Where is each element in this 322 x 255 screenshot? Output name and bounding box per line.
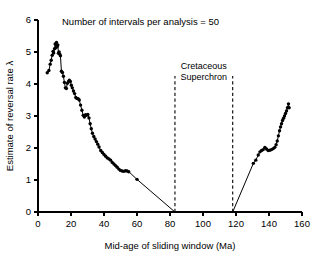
data-point [254,158,257,161]
x-axis-tick-label: 80 [165,218,176,229]
y-axis-tick-label: 3 [26,110,31,121]
data-point [279,125,282,128]
x-axis-tick-label: 100 [195,218,211,229]
data-point [86,113,89,116]
data-point [69,80,72,83]
data-point [47,69,50,72]
data-point [78,98,81,101]
data-point [87,116,90,119]
chart-canvas: 0123456 020406080100120140160 Cretaceous… [0,0,322,255]
data-point [52,51,55,54]
x-axis-tick-label: 40 [99,218,110,229]
superchron-label-line1: Cretaceous [181,61,228,71]
y-axis-tick-label: 5 [26,46,31,57]
x-axis-title: Mid-age of sliding window (Ma) [105,240,236,251]
data-point [127,170,130,173]
x-axis-tick-label: 60 [132,218,143,229]
data-point [88,122,91,125]
x-axis-tick-label: 160 [294,218,310,229]
reversal-rate-chart: 0123456 020406080100120140160 Cretaceous… [0,0,322,255]
data-point [91,132,94,135]
data-point [257,153,260,156]
x-axis-tick-label: 120 [228,218,244,229]
data-point [280,122,283,125]
data-point [276,139,279,142]
data-point [79,103,82,106]
data-point [90,127,93,130]
y-axis-title: Estimate of reversal rate λ [4,61,15,172]
chart-title: Number of intervals per analysis = 50 [62,16,219,27]
data-point [50,59,53,62]
data-point [71,86,74,89]
data-point [56,43,59,46]
data-point [73,92,76,95]
x-axis-tick-label: 0 [35,218,40,229]
data-point [285,109,288,112]
chart-background [0,0,322,255]
y-axis-tick-label: 2 [26,142,31,153]
data-point [278,129,281,132]
y-axis-tick-label: 1 [26,174,31,185]
data-point [65,87,68,90]
data-point [135,178,138,181]
data-point [49,62,52,65]
data-point [80,109,83,112]
data-point [277,134,280,137]
data-point [62,75,65,78]
data-point [97,145,100,148]
data-point [63,81,66,84]
y-axis-tick-label: 6 [26,14,31,25]
data-point [274,143,277,146]
superchron-label-line2: Superchron [181,72,228,82]
data-point [287,102,290,105]
x-axis-tick-label: 140 [261,218,277,229]
data-point [59,54,62,57]
y-axis-tick-label: 4 [26,78,31,89]
data-point [287,106,290,109]
x-axis-tick-label: 20 [66,218,77,229]
y-axis-tick-label: 0 [26,206,31,217]
data-point [252,162,255,165]
data-point [61,71,64,74]
